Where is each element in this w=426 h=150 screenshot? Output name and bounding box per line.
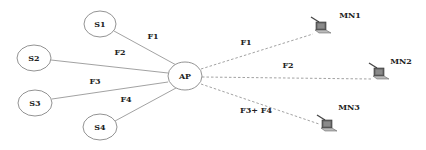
laptop-icon [369, 63, 389, 79]
node-s3: S3 [18, 90, 52, 116]
node-mn2-label: MN2 [390, 56, 412, 66]
edge-label-mn2-f2: F2 [282, 60, 293, 70]
link-s4-ap [115, 88, 176, 121]
node-s4-label: S4 [94, 122, 106, 132]
node-s3-label: S3 [29, 98, 41, 108]
node-mn2: MN2 [369, 56, 412, 79]
node-s1: S1 [84, 11, 116, 37]
link-s2-ap [51, 60, 168, 73]
edge-label-mn3-f3f4: F3+ F4 [240, 105, 272, 115]
node-s4: S4 [83, 114, 117, 140]
link-s3-ap [52, 82, 168, 99]
edge-label-s2-f2: F2 [114, 47, 125, 57]
node-s2-label: S2 [28, 53, 39, 63]
node-mn3: MN3 [317, 102, 360, 131]
edge-label-mn1-f1: F1 [240, 37, 251, 47]
laptop-icon [317, 115, 337, 131]
network-diagram: S1 S2 S3 S4 AP F1 F2 F3 F4 F1 F2 F3+ F4 … [0, 0, 426, 150]
laptop-icon [311, 17, 331, 33]
node-s1-label: S1 [94, 19, 105, 29]
node-s2: S2 [17, 45, 51, 71]
node-ap: AP [168, 62, 202, 90]
source-links [51, 31, 178, 121]
link-ap-mn3 [201, 84, 319, 124]
edge-label-s1-f1: F1 [147, 31, 158, 41]
node-mn1: MN1 [311, 10, 361, 33]
node-mn3-label: MN3 [338, 102, 360, 112]
node-mn1-label: MN1 [339, 10, 361, 20]
edge-label-s4-f4: F4 [120, 94, 132, 104]
node-ap-label: AP [178, 71, 191, 81]
link-ap-mn1 [201, 34, 313, 69]
link-ap-mn2 [202, 77, 372, 79]
edge-label-s3-f3: F3 [89, 76, 101, 86]
